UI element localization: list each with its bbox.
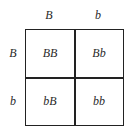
cell-Bb: Bb [75, 30, 123, 77]
column-header-1: B [39, 8, 59, 22]
cell-BB: BB [26, 30, 74, 77]
row-header-2: b [3, 94, 23, 108]
punnett-grid: BB Bb bB bb [25, 29, 124, 126]
column-header-2: b [88, 8, 108, 22]
row-header-1: B [3, 46, 23, 60]
cell-bB: bB [26, 78, 74, 125]
cell-bb: bb [75, 78, 123, 125]
